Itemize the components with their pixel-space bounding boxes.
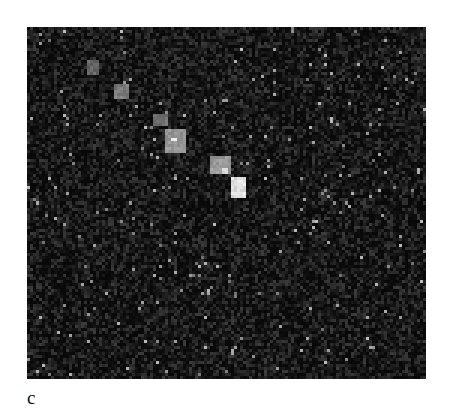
figure-image-panel [27,27,426,379]
panel-label: c [27,388,35,407]
micrograph-image [27,27,426,379]
